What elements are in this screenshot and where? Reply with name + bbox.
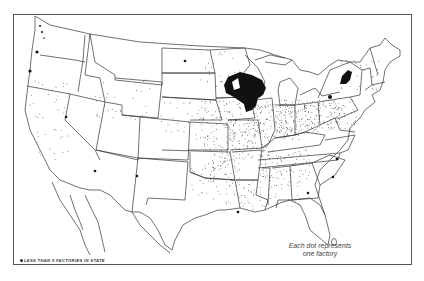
or-ca-border (27, 86, 70, 94)
map-caption: Each dot represents one factory (270, 242, 370, 258)
wa-or-border (40, 55, 85, 62)
factory-dots-scatter (30, 50, 380, 210)
legend-note-text: LESS THAN 5 FACTORIES IN STATE (24, 258, 105, 263)
dot-marker-icon (20, 259, 23, 262)
caption-line-2: one factory (270, 250, 370, 258)
legend-note: LESS THAN 5 FACTORIES IN STATE (20, 258, 105, 263)
us-factory-dot-map (0, 0, 424, 281)
factory-dot-clusters (28, 25, 352, 112)
us-outline (25, 16, 400, 250)
caption-line-1: Each dot represents (270, 242, 370, 250)
low-count-state-markers (65, 60, 339, 214)
